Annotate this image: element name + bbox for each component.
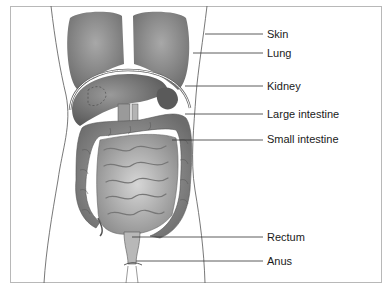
torso-illustration [0,0,388,290]
skin-outline-right [193,6,207,283]
label-small-intestine: Small intestine [267,133,339,145]
label-anus: Anus [267,255,292,267]
label-rectum: Rectum [267,231,305,243]
label-large-intestine: Large intestine [267,108,339,120]
label-lung: Lung [267,47,291,59]
label-kidney: Kidney [267,80,301,92]
skin-outline-left [44,6,68,283]
small-intestine [97,134,178,234]
kidney [157,88,178,110]
label-skin: Skin [267,28,288,40]
